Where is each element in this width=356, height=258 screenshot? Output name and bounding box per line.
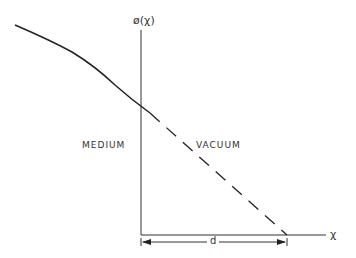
x-axis-label: χ bbox=[330, 228, 336, 241]
medium-label: MEDIUM bbox=[82, 140, 125, 150]
distance-label: d bbox=[210, 235, 216, 246]
diagram-canvas bbox=[0, 0, 356, 258]
potential-curve bbox=[15, 25, 150, 113]
arrowhead-left-icon bbox=[142, 239, 151, 245]
vacuum-label: VACUUM bbox=[196, 140, 241, 150]
extrapolated-dashed-line bbox=[150, 113, 287, 235]
y-axis-label: ø(χ) bbox=[133, 14, 155, 27]
arrowhead-right-icon bbox=[277, 239, 286, 245]
